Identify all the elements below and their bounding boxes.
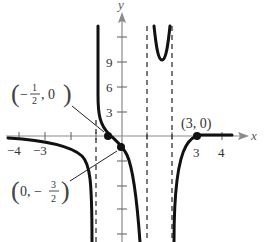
y-axis-label: y bbox=[116, 0, 124, 12]
leader-line-y-intercept bbox=[70, 151, 117, 181]
point-x-intercept-right bbox=[193, 132, 201, 140]
svg-text:(: ( bbox=[11, 176, 20, 205]
svg-text:): ) bbox=[63, 79, 72, 108]
rational-function-graph: x y −4 −3 3 4 9 6 3 bbox=[0, 0, 265, 242]
point-x-intercept-left bbox=[104, 132, 112, 140]
svg-text:(: ( bbox=[11, 79, 20, 108]
y-tick-label-9: 9 bbox=[106, 55, 113, 70]
svg-text:): ) bbox=[61, 176, 70, 205]
svg-text:2: 2 bbox=[32, 95, 37, 106]
annotation-y-intercept: ( 0, − 3 2 ) bbox=[11, 176, 70, 205]
curve-top-branch bbox=[154, 26, 170, 60]
point-y-intercept bbox=[117, 143, 125, 151]
x-tick-label-3: 3 bbox=[193, 145, 200, 160]
annotation-x-intercept-left: ( − 1 2 , 0 ) bbox=[11, 79, 72, 108]
curve-middle-branch bbox=[98, 26, 140, 242]
svg-text:3: 3 bbox=[51, 179, 56, 190]
x-axis-label: x bbox=[250, 128, 257, 143]
y-tick-label-3: 3 bbox=[106, 105, 113, 120]
svg-text:0, −: 0, − bbox=[20, 184, 42, 199]
x-tick-label-4: 4 bbox=[218, 145, 225, 160]
svg-text:−: − bbox=[20, 87, 28, 102]
x-tick-label-neg3: −3 bbox=[33, 143, 47, 158]
svg-text:2: 2 bbox=[51, 193, 56, 204]
x-tick-label-neg4: −4 bbox=[7, 143, 21, 158]
annotation-x-intercept-right: (3, 0) bbox=[181, 116, 212, 132]
y-tick-label-6: 6 bbox=[106, 80, 113, 95]
svg-text:, 0: , 0 bbox=[41, 87, 55, 102]
axes: x y bbox=[6, 0, 257, 242]
svg-text:1: 1 bbox=[32, 82, 37, 93]
